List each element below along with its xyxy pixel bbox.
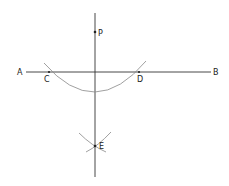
- label-b: B: [213, 68, 219, 77]
- construction-diagram: A B C D P E: [0, 0, 229, 186]
- point-c-dot: [48, 71, 50, 73]
- label-a: A: [17, 68, 23, 77]
- point-e-dot: [94, 145, 97, 148]
- label-c: C: [44, 75, 50, 84]
- label-d: D: [137, 75, 143, 84]
- point-d-dot: [138, 71, 140, 73]
- label-p: P: [98, 29, 103, 38]
- label-e: E: [99, 142, 104, 151]
- point-p-dot: [94, 31, 97, 34]
